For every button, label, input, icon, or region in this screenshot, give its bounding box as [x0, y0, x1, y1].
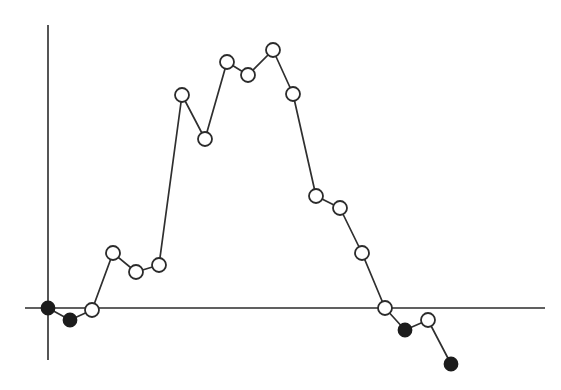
data-series-group [42, 43, 458, 371]
data-point-marker-0 [42, 302, 55, 315]
data-point-marker-8 [220, 55, 234, 69]
data-point-marker-9 [241, 68, 255, 82]
chart-figure [0, 0, 561, 390]
series-markers [42, 43, 458, 371]
data-point-marker-18 [445, 358, 458, 371]
line-chart-canvas [0, 0, 561, 390]
data-point-marker-6 [175, 88, 189, 102]
data-point-marker-14 [355, 246, 369, 260]
data-point-marker-11 [286, 87, 300, 101]
data-point-marker-17 [421, 313, 435, 327]
data-point-marker-2 [85, 303, 99, 317]
data-point-marker-13 [333, 201, 347, 215]
data-point-marker-7 [198, 132, 212, 146]
data-point-marker-4 [129, 265, 143, 279]
data-point-marker-3 [106, 246, 120, 260]
data-point-marker-5 [152, 258, 166, 272]
data-point-marker-1 [64, 314, 77, 327]
data-point-marker-15 [378, 301, 392, 315]
data-point-marker-16 [399, 324, 412, 337]
data-point-marker-12 [309, 189, 323, 203]
data-point-marker-10 [266, 43, 280, 57]
series-line [48, 50, 451, 364]
